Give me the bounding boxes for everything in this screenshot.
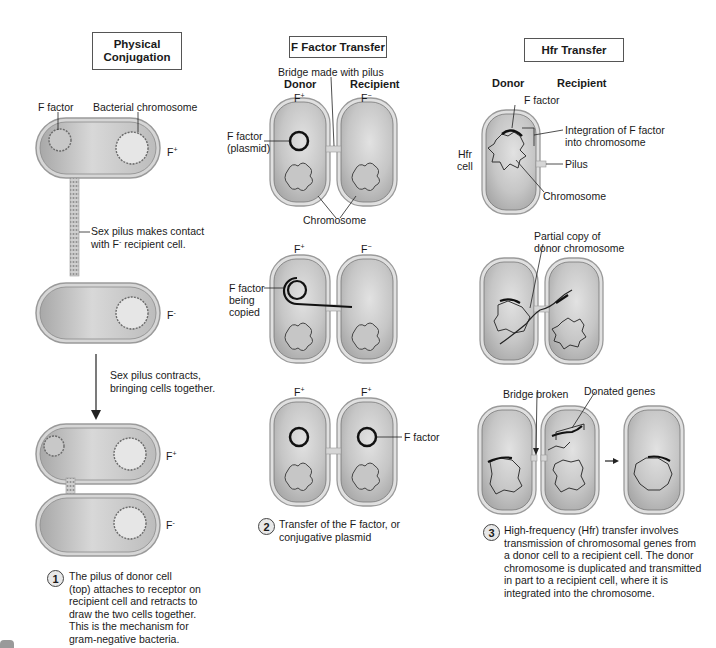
conjugated-pair <box>36 424 160 556</box>
caption-physical-conjugation: The pilus of donor cell (top) attaches t… <box>69 570 219 645</box>
ff-row1 <box>264 77 397 218</box>
panel-physical-conjugation-graphics <box>36 112 160 556</box>
label-f-minus: F- <box>167 309 176 321</box>
label-partial-copy: Partial copy of donor chromosome <box>534 230 624 254</box>
label-hfr-recipient: Recipient <box>557 77 607 89</box>
label-pilus-contact: Sex pilus makes contact with F- recipien… <box>91 225 204 251</box>
panel-title-physical-conjugation: PhysicalConjugation <box>92 32 182 70</box>
label-f-plus-r3-donor: F+ <box>294 386 305 398</box>
donor-cell-capsule <box>36 112 160 178</box>
sex-pilus-icon <box>70 178 79 276</box>
caption-hfr-transfer: High-frequency (Hfr) transfer involves t… <box>504 524 714 599</box>
label-f-factor-plasmid: F factor (plasmid) <box>227 130 270 154</box>
hfr-row3 <box>478 392 684 514</box>
label-f-plus-r3-recipient: F+ <box>361 386 372 398</box>
panel-f-factor-transfer-graphics <box>264 77 402 506</box>
step-badge-2: 2 <box>258 518 275 535</box>
label-chromosome: Chromosome <box>303 214 366 226</box>
label-f-plus-pair: F+ <box>166 450 177 462</box>
label-bridge-pilus: Bridge made with pilus <box>278 66 384 78</box>
label-hfr-cell: Hfr cell <box>457 148 473 172</box>
label-pilus-contracts: Sex pilus contracts, bringing cells toge… <box>110 369 215 395</box>
label-hfr-donor: Donor <box>492 77 524 89</box>
label-f-plus-donor: F+ <box>294 92 305 104</box>
step-badge-1: 1 <box>47 570 64 587</box>
label-f-minus-r2: F− <box>361 243 372 255</box>
f-factor-plasmid-icon <box>49 129 71 151</box>
label-hfr-f-factor: F factor <box>524 94 560 106</box>
label-bridge-broken: Bridge broken <box>503 388 568 400</box>
label-pilus: Pilus <box>565 158 588 170</box>
ff-row3 <box>270 398 402 506</box>
label-f-minus-pair: F- <box>166 519 175 531</box>
bacterial-chromosome-icon <box>116 132 148 164</box>
label-f-plus-r2: F+ <box>294 243 305 255</box>
step-badge-3: 3 <box>483 524 500 541</box>
label-donated-genes: Donated genes <box>584 385 655 397</box>
pilus-bridge-icon <box>326 146 341 152</box>
caption-f-factor-transfer: Transfer of the F factor, or conjugative… <box>279 518 429 543</box>
arrow-right-icon <box>613 458 619 464</box>
label-recipient: Recipient <box>350 78 400 90</box>
label-f-factor-being-copied: F factor being copied <box>229 282 265 318</box>
label-hfr-chromosome: Chromosome <box>543 190 606 202</box>
panel-title-hfr-transfer: Hfr Transfer <box>524 38 624 62</box>
label-f-minus-recipient: F− <box>361 92 372 104</box>
label-f-plus: F+ <box>167 146 178 158</box>
panel-title-f-factor-transfer: F Factor Transfer <box>289 36 387 58</box>
recipient-cell-capsule <box>36 283 160 343</box>
hfr-row2 <box>480 244 603 364</box>
label-integration: Integration of F factor into chromosome <box>565 124 665 148</box>
arrow-down-icon <box>91 410 101 420</box>
label-f-factor: F factor <box>38 101 74 113</box>
label-bacterial-chromosome: Bacterial chromosome <box>93 101 197 113</box>
label-f-factor-r3: F factor <box>404 431 440 443</box>
label-donor: Donor <box>284 78 316 90</box>
corner-tab-icon <box>0 640 14 648</box>
ff-row2 <box>264 255 397 363</box>
